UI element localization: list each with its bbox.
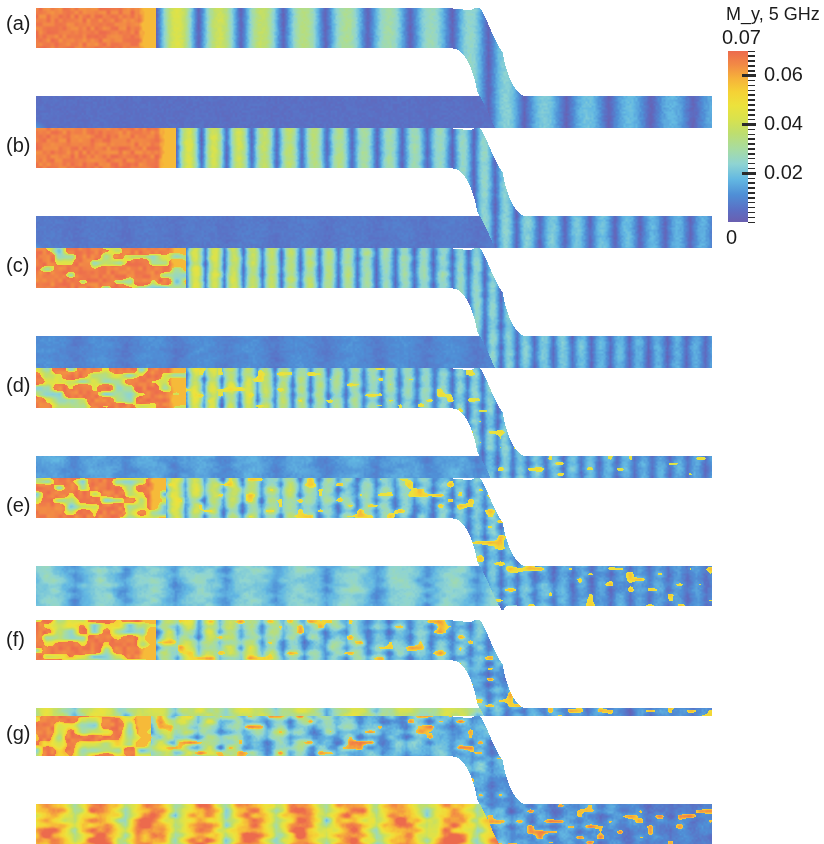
panel-label-b: (b) [6,134,30,157]
panel-label-e: (e) [6,494,30,517]
colorbar-minor-tick [748,212,755,214]
colorbar-minor-tick [748,60,755,62]
colorbar-minor-tick [748,202,755,204]
colorbar-minor-tick [748,129,755,131]
colorbar-minor-tick [748,55,755,57]
colorbar-minor-tick [748,109,755,111]
colorbar-minor-tick [748,80,755,82]
colorbar-minor-tick [748,178,755,180]
colorbar-minor-tick [748,85,755,87]
colorbar-minor-tick [748,104,755,106]
panel-label-d: (d) [6,374,30,397]
colorbar-minor-tick [748,99,755,101]
colorbar-minor-tick [748,114,755,116]
colorbar-max-label: 0.07 [722,26,761,49]
colorbar-minor-tick [748,90,755,92]
colorbar-minor-tick [748,65,755,67]
colorbar-minor-tick [748,138,755,140]
colorbar-minor-tick [748,217,755,219]
colorbar-minor-tick [748,143,755,145]
panel-label-f: (f) [6,628,25,651]
colorbar-tick-label: 0.04 [764,112,803,135]
colorbar-major-tick [742,123,756,126]
figure-canvas: (a)(b)(c)(d)(e)(f)(g) [0,0,824,844]
colorbar-minor-tick [748,70,755,72]
panel-label-a: (a) [6,12,30,35]
colorbar-minor-tick [748,187,755,189]
colorbar-minor-tick [748,163,755,165]
colorbar-title: M_y, 5 GHz [726,4,820,25]
colorbar-minor-tick [748,148,755,150]
colorbar-minor-tick [748,94,755,96]
colorbar-minor-tick [748,153,755,155]
colorbar-tick-label: 0.06 [764,63,803,86]
colorbar-minor-tick [748,119,755,121]
colorbar-minor-tick [748,207,755,209]
spin-wave-maps [0,0,824,844]
colorbar-minor-tick [748,158,755,160]
colorbar-minor-tick [748,222,755,224]
panel-label-g: (g) [6,722,30,745]
colorbar-minor-tick [748,182,755,184]
colorbar-major-tick [742,172,756,175]
colorbar-minor-tick [748,51,755,53]
colorbar-minor-tick [748,192,755,194]
colorbar-minor-tick [748,168,755,170]
colorbar-tick-label: 0.02 [764,161,803,184]
colorbar-major-tick [742,74,756,77]
colorbar-minor-tick [748,134,755,136]
colorbar-min-label: 0 [726,226,737,249]
panel-label-c: (c) [6,254,29,277]
colorbar-minor-tick [748,197,755,199]
colorbar: M_y, 5 GHz 0.07 0 0.060.040.02 [722,0,824,260]
